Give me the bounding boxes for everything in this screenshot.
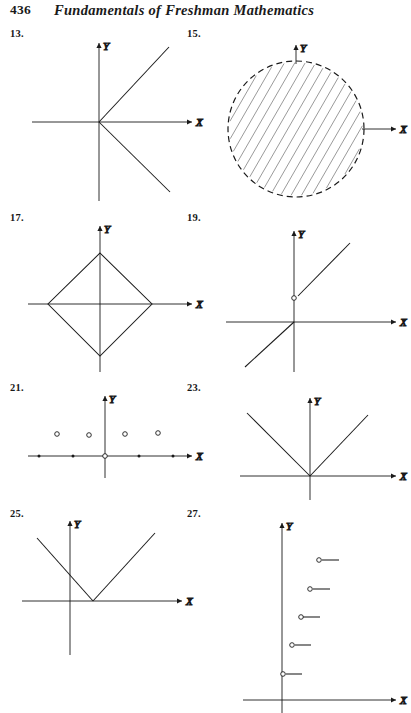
y-axis-label: Y [103,40,111,52]
figure-graph-13: XY [0,0,411,713]
figure-label-23: 23. [187,382,201,393]
x-axis-label: X [195,116,204,128]
y-axis-label: Y [74,518,82,530]
figure-graph-17: XY [0,0,411,713]
figure-graph-23: XY [0,0,411,713]
figure-label-21: 21. [10,382,24,393]
figure-graph-19: XY [0,0,411,713]
page-header: 436 Fundamentals of Freshman Mathematics [0,0,411,24]
x-axis-label: X [195,450,204,462]
figure-graph-15: XY [0,0,411,713]
y-axis-label: Y [104,223,112,235]
x-axis-label: X [185,595,194,607]
y-axis-label: Y [298,228,306,240]
page-number: 436 [10,2,31,18]
x-axis-label: X [399,694,408,706]
figure-graph-21: XY [0,0,411,713]
figure-label-17: 17. [10,212,24,223]
figure-graph-25: XY [0,0,411,713]
figure-graph-27: XY [0,0,411,713]
x-axis-label: X [195,298,204,310]
figure-label-13: 13. [10,28,24,39]
y-axis-label: Y [314,395,322,407]
figure-label-15: 15. [187,28,201,39]
x-axis-label: X [399,123,408,135]
y-axis-label: Y [300,42,308,54]
figure-label-25: 25. [10,508,24,519]
y-axis-label: Y [109,393,117,405]
figure-label-19: 19. [187,212,201,223]
figure-label-27: 27. [187,508,201,519]
x-axis-label: X [399,316,408,328]
book-title: Fundamentals of Freshman Mathematics [54,2,314,19]
y-axis-label: Y [286,520,294,532]
x-axis-label: X [399,470,408,482]
